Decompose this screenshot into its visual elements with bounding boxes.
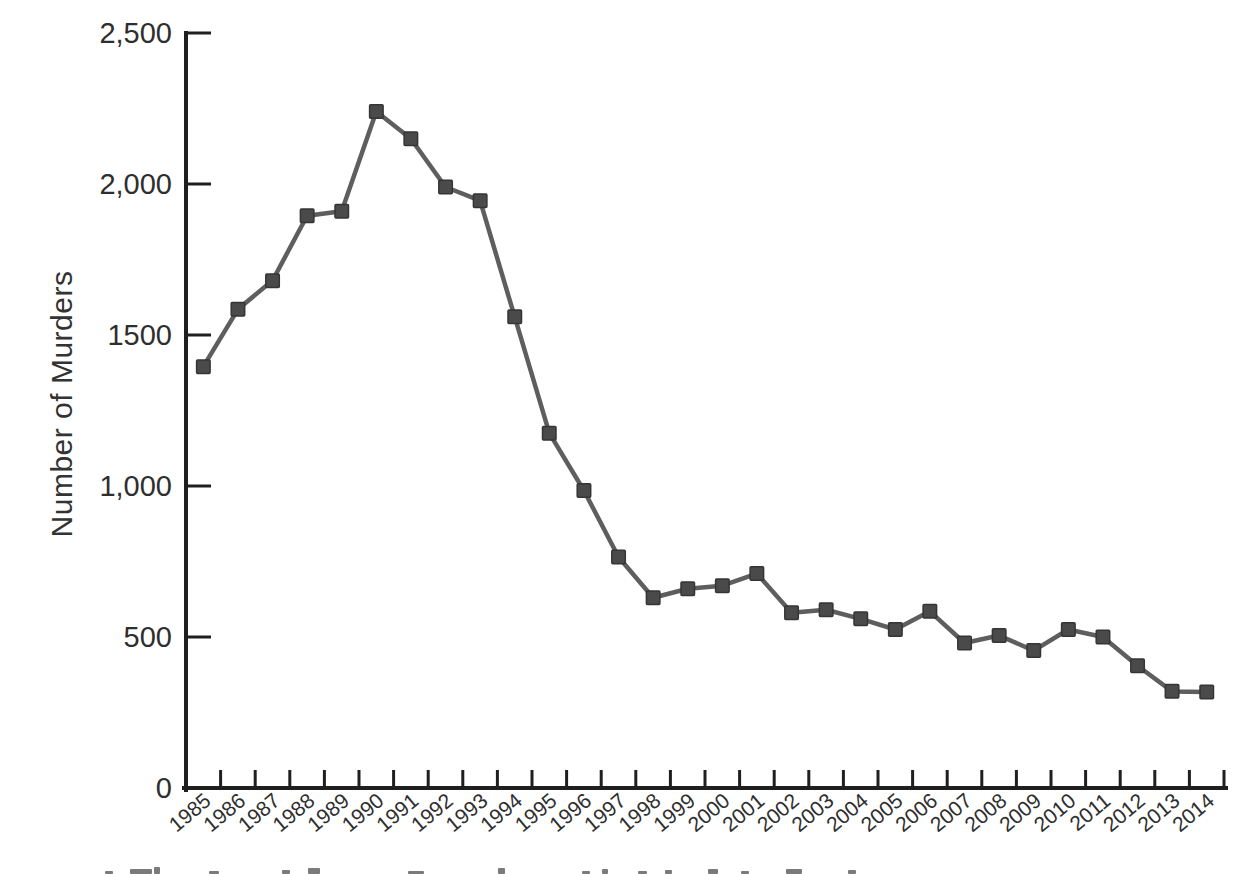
data-point-marker-1992 <box>439 180 453 194</box>
x-axis-year-labels: 1985198619871988198919901991199219931994… <box>164 788 1218 836</box>
caption-letter-top-12 <box>665 870 672 874</box>
data-point-marker-1991 <box>404 132 418 146</box>
data-point-marker-1997 <box>612 550 626 564</box>
book-page-scan: 05001,00015002,0002,500 1985198619871988… <box>0 0 1257 874</box>
data-point-marker-1999 <box>681 582 695 596</box>
caption-letter-top-8 <box>498 868 505 874</box>
x-axis-ticks <box>221 770 1224 788</box>
y-axis-ticks <box>186 33 211 637</box>
data-point-marker-1996 <box>577 484 591 498</box>
data-point-marker-1990 <box>370 105 384 119</box>
data-point-marker-2009 <box>1027 644 1041 658</box>
data-series-line <box>203 112 1206 693</box>
y-tick-label-0: 0 <box>156 772 172 804</box>
data-point-marker-1998 <box>646 591 660 605</box>
murders-line-chart: 05001,00015002,0002,500 1985198619871988… <box>0 0 1257 874</box>
caption-letter-top-3 <box>154 867 160 874</box>
y-tick-label-2500: 2,500 <box>99 17 172 49</box>
data-point-marker-2013 <box>1165 685 1179 699</box>
data-point-marker-1988 <box>300 209 314 223</box>
data-point-marker-1986 <box>231 303 245 317</box>
x-tick-label-2014: 2014 <box>1168 788 1219 836</box>
caption-letter-top-15 <box>786 869 802 874</box>
data-point-marker-2010 <box>1062 623 1076 637</box>
data-point-marker-2003 <box>819 603 833 617</box>
data-point-marker-1985 <box>197 360 211 374</box>
y-axis-title: Number of Murders <box>45 271 78 538</box>
data-point-marker-2002 <box>785 606 799 620</box>
y-axis-tick-labels: 05001,00015002,0002,500 <box>99 17 172 804</box>
murders-data-series <box>197 105 1214 699</box>
y-tick-label-1500: 1500 <box>107 319 172 351</box>
y-tick-label-1000: 1,000 <box>99 470 172 502</box>
data-point-marker-1989 <box>335 204 349 218</box>
data-point-marker-1994 <box>508 310 522 324</box>
data-point-marker-2014 <box>1200 685 1214 699</box>
data-point-marker-2006 <box>923 605 937 619</box>
data-point-marker-2011 <box>1096 630 1110 644</box>
data-point-marker-2005 <box>889 623 903 637</box>
data-point-marker-2007 <box>958 636 972 650</box>
y-tick-label-2000: 2,000 <box>99 168 172 200</box>
data-point-marker-2004 <box>854 612 868 626</box>
data-point-marker-1995 <box>543 426 557 440</box>
data-point-marker-1993 <box>473 194 487 208</box>
y-tick-label-500: 500 <box>124 621 172 653</box>
data-point-marker-2012 <box>1131 659 1145 673</box>
caption-letter-top-10 <box>602 869 608 874</box>
cutoff-caption-fragment <box>0 865 1257 874</box>
caption-letter-top-16 <box>848 870 856 874</box>
data-point-marker-2000 <box>716 579 730 593</box>
caption-letter-top-5 <box>282 870 290 874</box>
data-point-marker-2001 <box>750 567 764 581</box>
caption-letter-top-6 <box>308 868 320 874</box>
caption-letter-top-13 <box>708 869 718 874</box>
data-point-marker-2008 <box>992 629 1006 643</box>
caption-letter-top-2 <box>130 869 152 874</box>
data-point-marker-1987 <box>266 274 280 288</box>
